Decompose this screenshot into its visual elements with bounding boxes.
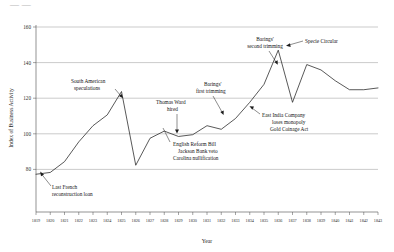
axes xyxy=(36,25,378,212)
arrowhead xyxy=(220,110,223,115)
business-activity-line-chart: 160 140 120 100 80 Index of Business Act… xyxy=(0,0,394,252)
x-tick-label-1842: 1842 xyxy=(360,218,368,223)
chart-figure: — — 160 140 120 100 80 Index of xyxy=(0,0,394,252)
y-axis-title: Index of Business Activity xyxy=(8,88,14,148)
annotation-line: Jackson Bank veto xyxy=(178,148,218,154)
x-tick-labels: 1819182018211822182318241825182618271828… xyxy=(32,218,382,223)
annotation-line: Carolina nullification xyxy=(173,155,219,161)
annotation-specie-circular: Specie Circular xyxy=(286,38,338,47)
y-tick-label-120: 120 xyxy=(23,95,31,101)
leader-line xyxy=(115,89,121,96)
annotation-line: speculations xyxy=(74,85,100,91)
x-tick-label-1834: 1834 xyxy=(246,218,255,223)
y-tick-label-140: 140 xyxy=(23,60,31,66)
x-tick-label-1830: 1830 xyxy=(189,218,197,223)
annotation-line: Barings' xyxy=(204,81,221,87)
x-tick-label-1840: 1840 xyxy=(331,218,339,223)
x-tick-label-1831: 1831 xyxy=(203,218,211,223)
x-tick-label-1819: 1819 xyxy=(32,218,40,223)
x-tick-label-1841: 1841 xyxy=(345,218,353,223)
x-tick-label-1838: 1838 xyxy=(303,218,311,223)
annotation-english-reform-bill: English Reform Bill Jackson Bank veto Ca… xyxy=(163,128,219,161)
y-tick-label-160: 160 xyxy=(23,24,31,30)
x-tick-label-1826: 1826 xyxy=(132,218,140,223)
x-tick-label-1835: 1835 xyxy=(260,218,268,223)
leader-line xyxy=(42,174,52,186)
annotation-line: Thomas Ward xyxy=(156,99,186,105)
x-tick-label-1820: 1820 xyxy=(46,218,54,223)
annotation-line: South American xyxy=(71,78,106,84)
x-tick-label-1827: 1827 xyxy=(146,218,154,223)
annotation-line: Gold Coinage Act xyxy=(270,126,309,132)
x-axis-title: Year xyxy=(202,238,212,244)
x-tick-label-1833: 1833 xyxy=(231,218,239,223)
x-tick-label-1825: 1825 xyxy=(117,218,125,223)
annotation-line: reconstruction loan xyxy=(52,191,93,197)
y-tick-label-100: 100 xyxy=(23,131,31,137)
leader-line xyxy=(269,51,276,62)
y-tick-marks xyxy=(33,27,36,169)
annotation-line: English Reform Bill xyxy=(173,141,216,147)
annotation-thomas-ward-hired: Thomas Ward hired xyxy=(156,99,186,134)
x-tick-label-1828: 1828 xyxy=(160,218,168,223)
annotation-line: loses monopoly xyxy=(272,119,306,125)
x-tick-label-1823: 1823 xyxy=(89,218,97,223)
leader-line xyxy=(163,128,170,142)
x-tick-label-1837: 1837 xyxy=(288,218,296,223)
x-tick-marks xyxy=(36,212,378,215)
arrowhead xyxy=(40,172,44,177)
annotation-last-french-reconstruction-loan: Last French reconstruction loan xyxy=(40,172,93,197)
annotation-line: hired xyxy=(167,106,178,112)
x-tick-label-1822: 1822 xyxy=(75,218,83,223)
y-tick-labels: 160 140 120 100 80 xyxy=(23,24,31,172)
annotation-line: first trimming xyxy=(196,88,226,94)
annotation-line: Barings' xyxy=(256,36,273,42)
leader-line xyxy=(289,41,303,45)
leader-line xyxy=(252,108,260,114)
x-tick-label-1832: 1832 xyxy=(217,218,225,223)
arrowhead xyxy=(286,43,291,47)
annotation-line: Last French xyxy=(52,184,78,190)
x-tick-label-1824: 1824 xyxy=(103,218,112,223)
arrowhead xyxy=(175,129,179,133)
x-tick-label-1843: 1843 xyxy=(374,218,382,223)
annotation-line: East India Company xyxy=(262,112,306,118)
annotation-line: Specie Circular xyxy=(305,38,338,44)
y-tick-label-80: 80 xyxy=(26,166,32,172)
cropped-header-text: — — xyxy=(0,0,394,9)
annotation-east-india-company: East India Company loses monopoly Gold C… xyxy=(250,106,309,132)
x-tick-label-1821: 1821 xyxy=(60,218,68,223)
annotation-south-american-speculations: South American speculations xyxy=(71,78,123,98)
x-tick-label-1836: 1836 xyxy=(274,218,282,223)
x-tick-label-1829: 1829 xyxy=(174,218,182,223)
annotation-line: second trimming xyxy=(247,43,283,49)
x-tick-label-1839: 1839 xyxy=(317,218,325,223)
